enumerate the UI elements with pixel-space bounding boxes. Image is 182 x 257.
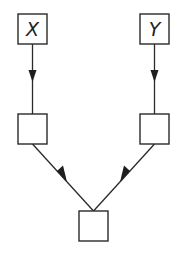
arrowhead-icon bbox=[151, 70, 159, 82]
node-y: Y bbox=[140, 14, 169, 44]
arrowhead-icon bbox=[120, 166, 130, 183]
arrowhead-icon bbox=[57, 166, 67, 183]
node-mid-left bbox=[18, 114, 47, 144]
edge-y-to-mid-right bbox=[151, 44, 159, 114]
node-mid-right bbox=[140, 114, 169, 144]
node-y-label: Y bbox=[149, 18, 162, 40]
node-x-label: X bbox=[25, 18, 40, 40]
edge-mid-left-to-bottom bbox=[33, 144, 94, 211]
edge-mid-right-to-bottom bbox=[94, 144, 155, 211]
arrowhead-icon bbox=[29, 70, 37, 82]
node-bottom bbox=[79, 211, 108, 241]
causal-diagram: X Y bbox=[0, 0, 182, 257]
edge-x-to-mid-left bbox=[29, 44, 37, 114]
node-x: X bbox=[18, 14, 47, 44]
